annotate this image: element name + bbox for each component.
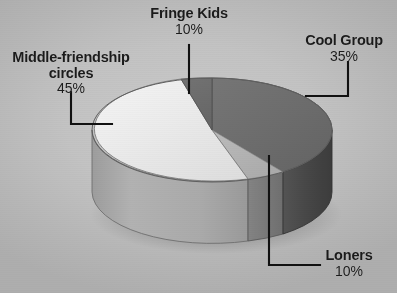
label-loners: Loners 10%	[308, 248, 390, 279]
label-middle-friendship-name-line2: circles	[2, 66, 140, 82]
label-cool-group: Cool Group 35%	[292, 33, 396, 64]
label-middle-friendship-name-line1: Middle-friendship	[2, 50, 140, 66]
label-loners-percent: 10%	[308, 264, 390, 279]
label-middle-friendship: Middle-friendship circles 45%	[2, 50, 140, 96]
label-fringe-kids-name: Fringe Kids	[136, 6, 242, 22]
label-fringe-kids: Fringe Kids 10%	[136, 6, 242, 37]
label-middle-friendship-percent: 45%	[2, 81, 140, 96]
label-fringe-kids-percent: 10%	[136, 22, 242, 37]
label-cool-group-name: Cool Group	[292, 33, 396, 49]
label-loners-name: Loners	[308, 248, 390, 264]
chart-canvas: Fringe Kids 10% Cool Group 35% Middle-fr…	[0, 0, 397, 293]
slice-side-loners	[248, 172, 283, 241]
label-cool-group-percent: 35%	[292, 49, 396, 64]
leader-line-cool-group	[306, 62, 348, 96]
